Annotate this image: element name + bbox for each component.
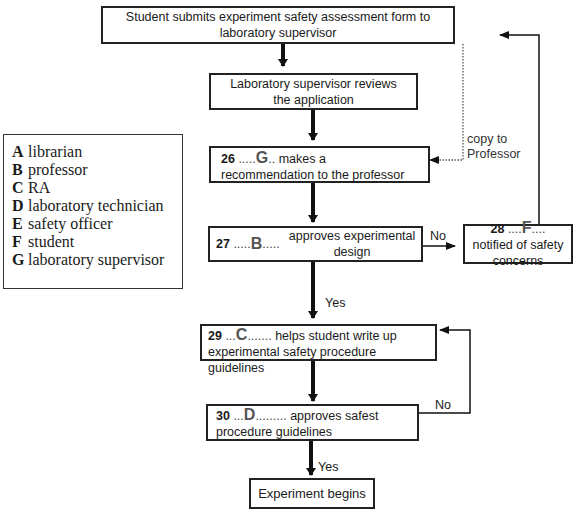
- yes-label-27: Yes: [325, 296, 345, 311]
- legend-key: C: [12, 179, 28, 197]
- legend-key: B: [12, 161, 28, 179]
- review-step-text: Laboratory supervisor reviews the applic…: [225, 76, 402, 108]
- step-30-answer: D: [244, 406, 256, 423]
- copy-to-line-2: Professor: [467, 147, 521, 162]
- legend-key: E: [12, 215, 28, 233]
- start-step-text: Student submits experiment safety assess…: [103, 9, 453, 41]
- copy-to-line-1: copy to: [467, 132, 521, 147]
- legend-key: G: [12, 251, 28, 269]
- step-28-box: 28 ....F.... notified of safety concerns…: [463, 224, 573, 264]
- end-step-text: Experiment begins: [258, 486, 366, 502]
- step-28-answer: F: [522, 219, 532, 236]
- step-30-box: 30 ...D......... approves safest procedu…: [206, 404, 419, 441]
- legend-key: A: [12, 143, 28, 161]
- legend-item-b: Bprofessor: [12, 161, 182, 179]
- legend-label: laboratory technician: [28, 197, 164, 214]
- no-label-27: No: [430, 229, 446, 244]
- step-26-answer: G: [256, 149, 268, 166]
- legend-label: safety officer: [28, 215, 113, 232]
- step-26-number: 26: [221, 152, 235, 166]
- legend-label: professor: [28, 161, 88, 178]
- end-step-box: Experiment begins: [249, 478, 375, 509]
- start-step-box: Student submits experiment safety assess…: [101, 6, 455, 44]
- legend-item-c: CRA: [12, 179, 182, 197]
- legend-key: F: [12, 233, 28, 251]
- step-29-box: 29 ...C....... helps student write up ex…: [200, 324, 437, 361]
- step-27-text: approves experimental design: [283, 228, 421, 260]
- legend-key: D: [12, 197, 28, 215]
- step-28-number: 28: [491, 222, 505, 236]
- step-26-box: 26 .....G.. makes a recommendation to th…: [209, 146, 430, 183]
- legend-item-g: Glaboratory supervisor: [12, 251, 182, 269]
- review-step-box: Laboratory supervisor reviews the applic…: [209, 73, 418, 110]
- legend-label: student: [28, 233, 74, 250]
- copy-to-professor-label: copy to Professor: [467, 132, 521, 162]
- step-29-number: 29: [208, 329, 222, 343]
- step-27-number: 27: [216, 236, 230, 252]
- step-27-answer: B: [251, 236, 263, 252]
- answer-options-legend: Alibrarian Bprofessor CRA Dlaboratory te…: [3, 134, 183, 289]
- no-label-30: No: [435, 398, 451, 413]
- legend-item-f: Fstudent: [12, 233, 182, 251]
- step-27-box: 27 .....B..... approves experimental des…: [208, 226, 423, 262]
- legend-item-d: Dlaboratory technician: [12, 197, 182, 215]
- yes-label-30: Yes: [318, 460, 338, 475]
- legend-item-e: Esafety officer: [12, 215, 182, 233]
- step-30-number: 30: [216, 409, 230, 423]
- legend-label: librarian: [28, 143, 82, 160]
- legend-label: RA: [28, 179, 50, 196]
- step-29-answer: C: [236, 326, 248, 343]
- legend-label: laboratory supervisor: [28, 251, 164, 268]
- legend-item-a: Alibrarian: [12, 143, 182, 161]
